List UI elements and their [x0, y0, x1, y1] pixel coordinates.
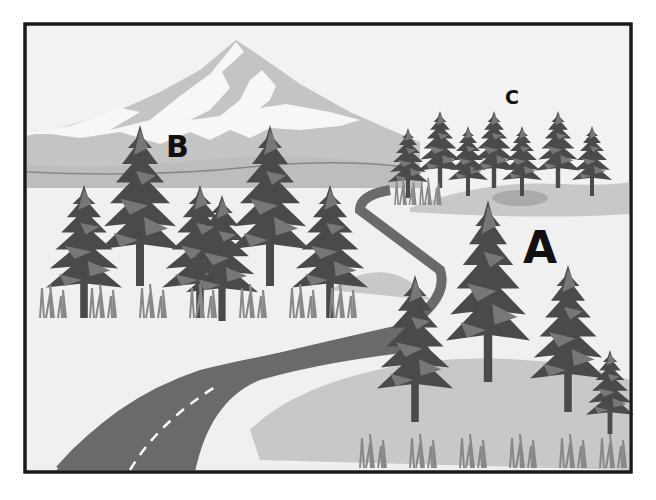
label-c: C	[505, 88, 519, 107]
label-b: B	[166, 132, 189, 162]
landscape-scene	[0, 0, 656, 500]
label-a: A	[523, 226, 557, 270]
